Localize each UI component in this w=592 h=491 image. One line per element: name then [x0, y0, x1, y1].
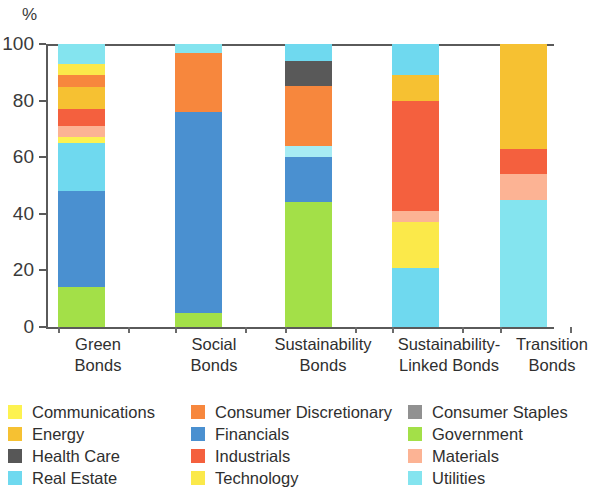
legend-item[interactable]: Technology	[191, 468, 298, 488]
x-axis-category-label-line: Bonds	[38, 355, 158, 376]
legend-item[interactable]: Industrials	[191, 446, 290, 466]
y-axis-tick-label: 100	[2, 33, 34, 55]
bar-segment[interactable]	[285, 157, 332, 202]
bar-segment[interactable]	[175, 313, 222, 327]
y-axis-tick-label: 20	[13, 259, 34, 281]
legend-item[interactable]: Consumer Discretionary	[191, 402, 392, 422]
bar-segment[interactable]	[392, 222, 439, 267]
legend-color-swatch	[191, 449, 205, 463]
stacked-bar[interactable]	[500, 44, 547, 327]
x-axis-category-label-line: Bonds	[494, 355, 592, 376]
legend-color-swatch	[408, 427, 422, 441]
bar-segment[interactable]	[58, 126, 105, 137]
stacked-bar[interactable]	[175, 44, 222, 327]
legend-color-swatch	[408, 471, 422, 485]
y-axis-tick	[39, 213, 46, 215]
bar-segment[interactable]	[58, 109, 105, 126]
x-axis-tick	[500, 327, 502, 333]
bar-segment[interactable]	[285, 86, 332, 145]
bar-segment[interactable]	[392, 75, 439, 100]
stacked-bar[interactable]	[392, 44, 439, 327]
x-axis-tick	[175, 327, 177, 333]
bar-segment[interactable]	[58, 191, 105, 287]
x-axis-category-label-line: Transition	[494, 334, 592, 355]
legend-item[interactable]: Utilities	[408, 468, 485, 488]
legend-item[interactable]: Real Estate	[8, 468, 117, 488]
stacked-bar[interactable]	[58, 44, 105, 327]
x-axis-tick	[285, 327, 287, 333]
bar-segment[interactable]	[500, 149, 547, 174]
legend-label: Energy	[32, 425, 84, 444]
legend-item[interactable]: Financials	[191, 424, 289, 444]
legend-label: Government	[432, 425, 523, 444]
bar-segment[interactable]	[392, 101, 439, 211]
x-axis-category-label: SustainabilityBonds	[258, 334, 388, 376]
bar-segment[interactable]	[500, 174, 547, 199]
bar-segment[interactable]	[58, 87, 105, 110]
bar-segment[interactable]	[285, 202, 332, 327]
legend-label: Consumer Staples	[432, 403, 568, 422]
plot-area: 020406080100	[46, 44, 554, 327]
chart-legend: CommunicationsConsumer DiscretionaryCons…	[8, 402, 564, 490]
legend-label: Health Care	[32, 447, 120, 466]
x-axis-tick	[462, 327, 464, 333]
bar-segment[interactable]	[175, 112, 222, 313]
y-axis-tick	[39, 156, 46, 158]
legend-color-swatch	[8, 449, 22, 463]
x-axis-category-label-line: Green	[38, 334, 158, 355]
bar-segment[interactable]	[392, 44, 439, 75]
legend-label: Communications	[32, 403, 155, 422]
legend-item[interactable]: Government	[408, 424, 523, 444]
legend-color-swatch	[191, 471, 205, 485]
legend-color-swatch	[8, 427, 22, 441]
x-axis-category-label-line: Bonds	[154, 355, 274, 376]
legend-color-swatch	[8, 405, 22, 419]
bar-segment[interactable]	[392, 268, 439, 327]
y-axis-tick-label: 40	[13, 203, 34, 225]
y-axis-tick-label: 80	[13, 90, 34, 112]
bar-segment[interactable]	[175, 44, 222, 52]
x-axis-category-label: TransitionBonds	[494, 334, 592, 376]
axis-line-bottom	[46, 327, 554, 329]
bar-segment[interactable]	[58, 44, 105, 64]
x-axis-tick	[128, 327, 130, 333]
bar-segment[interactable]	[175, 53, 222, 112]
bar-segment[interactable]	[58, 287, 105, 327]
legend-label: Consumer Discretionary	[215, 403, 392, 422]
y-axis-tick	[39, 100, 46, 102]
bar-segment[interactable]	[285, 146, 332, 157]
legend-item[interactable]: Communications	[8, 402, 155, 422]
bar-segment[interactable]	[58, 64, 105, 75]
bar-segment[interactable]	[500, 44, 547, 149]
bar-segment[interactable]	[58, 75, 105, 86]
legend-label: Industrials	[215, 447, 290, 466]
bar-segment[interactable]	[285, 44, 332, 61]
x-axis-category-label: GreenBonds	[38, 334, 158, 376]
legend-label: Financials	[215, 425, 289, 444]
legend-item[interactable]: Consumer Staples	[408, 402, 568, 422]
legend-label: Materials	[432, 447, 499, 466]
bar-segment[interactable]	[500, 200, 547, 327]
stacked-bar[interactable]	[285, 44, 332, 327]
y-axis-tick	[39, 43, 46, 45]
legend-color-swatch	[408, 449, 422, 463]
bar-segment[interactable]	[392, 211, 439, 222]
legend-item[interactable]: Materials	[408, 446, 499, 466]
bar-segment[interactable]	[58, 143, 105, 191]
x-axis-tick	[245, 327, 247, 333]
x-axis-tick	[355, 327, 357, 333]
y-axis-unit-label: %	[22, 5, 37, 25]
legend-item[interactable]: Energy	[8, 424, 84, 444]
x-axis-category-label-line: Bonds	[258, 355, 388, 376]
x-axis-category-label: SocialBonds	[154, 334, 274, 376]
bar-segment[interactable]	[285, 61, 332, 86]
y-axis-tick-label: 60	[13, 146, 34, 168]
legend-color-swatch	[8, 471, 22, 485]
x-axis-category-label-line: Social	[154, 334, 274, 355]
legend-item[interactable]: Health Care	[8, 446, 120, 466]
legend-color-swatch	[191, 405, 205, 419]
x-axis-tick	[392, 327, 394, 333]
legend-label: Real Estate	[32, 469, 117, 488]
legend-color-swatch	[408, 405, 422, 419]
